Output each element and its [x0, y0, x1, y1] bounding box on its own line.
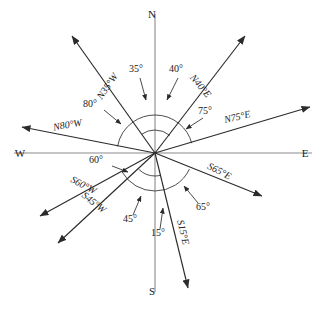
angle-label-n80w: 80°: [83, 98, 97, 109]
angle-label-s65e: 65°: [196, 201, 210, 212]
cardinal-label-north: N: [148, 8, 156, 20]
diagram-background: [0, 0, 325, 319]
cardinal-label-south: S: [149, 285, 155, 297]
angle-label-s60w: 60°: [89, 154, 103, 165]
angle-label-s45w: 45°: [123, 213, 137, 224]
compass-diagram: 35°40°80°75°60°45°65°15° N35°WN40°EN80°W…: [0, 0, 325, 319]
angle-label-n40e: 40°: [169, 63, 183, 74]
compass-rose-svg: 35°40°80°75°60°45°65°15° N35°WN40°EN80°W…: [0, 0, 325, 319]
angle-label-n35w: 35°: [129, 63, 143, 74]
cardinal-label-east: E: [302, 147, 309, 159]
angle-label-s15e: 15°: [151, 227, 165, 238]
angle-label-n75e: 75°: [198, 105, 212, 116]
cardinal-label-west: W: [15, 147, 26, 159]
